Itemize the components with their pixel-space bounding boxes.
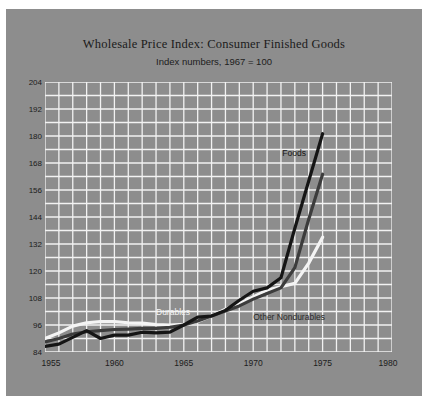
- chart-subtitle: Index numbers, 1967 = 100: [6, 56, 422, 67]
- x-axis-tick-label: 1975: [313, 358, 332, 368]
- y-axis-tick-label: 96: [33, 321, 42, 330]
- series-label-foods: Foods: [282, 148, 306, 158]
- plot-area: [45, 82, 392, 352]
- y-axis-tick-label: 204: [29, 78, 42, 87]
- y-axis-tick-label: 168: [29, 159, 42, 168]
- x-axis-tick-label: 1980: [379, 358, 398, 368]
- y-axis-tick-labels: 2041921801681561441321201089684: [14, 82, 42, 352]
- y-axis-tick-label: 132: [29, 240, 42, 249]
- x-axis-tick-label: 1955: [42, 358, 61, 368]
- x-axis-tick-labels: 195519601965197019751980: [45, 358, 405, 374]
- series-label-durables: Durables: [156, 307, 190, 317]
- x-axis-tick-label: 1960: [105, 358, 124, 368]
- y-axis-tick-label: 84: [33, 348, 42, 357]
- chart-title: Wholesale Price Index: Consumer Finished…: [6, 37, 422, 52]
- y-axis-tick-label: 144: [29, 213, 42, 222]
- x-axis-tick-label: 1965: [174, 358, 193, 368]
- y-axis-tick-label: 180: [29, 132, 42, 141]
- y-axis-tick-label: 120: [29, 267, 42, 276]
- x-axis-tick-label: 1970: [244, 358, 263, 368]
- chart-canvas: [45, 82, 392, 352]
- y-axis-tick-label: 108: [29, 294, 42, 303]
- y-axis-tick-label: 156: [29, 186, 42, 195]
- chart-figure: Wholesale Price Index: Consumer Finished…: [6, 9, 422, 396]
- y-axis-tick-label: 192: [29, 105, 42, 114]
- series-label-other-nondurables: Other Nondurables: [253, 312, 325, 322]
